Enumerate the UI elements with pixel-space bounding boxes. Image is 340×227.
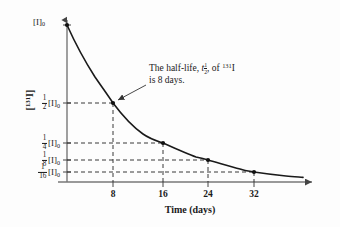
y-tick-label-quarter: 14[I]0 [26,135,60,151]
annotation-text-b: , of [207,63,222,73]
plot-area [0,0,340,227]
annotation-line-2: is 8 days. [149,75,185,85]
fraction-denominator: 2 [42,104,48,112]
y-tick-quarter-sub: 0 [57,143,60,149]
y-tick-sixteenth-sub: 0 [57,172,60,178]
x-tick-label-32: 32 [249,190,259,200]
y-tick-half-sub: 0 [57,103,60,109]
fraction-denominator: 4 [42,144,48,152]
x-tick-label-8: 8 [111,190,116,200]
x-axis-ticks [113,182,254,187]
x-axis-title: Time (days) [165,205,216,215]
y-tick-label-half: 12[I]0 [26,95,60,111]
y-tick-quarter-base: [I] [48,138,57,148]
annotation-isotope-mass: 131 [222,62,232,69]
fraction-denominator: 16 [38,173,47,181]
annotation-arrow [118,85,146,100]
fraction-one-quarter: 14 [42,135,48,151]
annotation-text-a: The half-life, [149,63,202,73]
decay-chart-figure: [131I] [I]0 12[I]0 14[I]0 18[I]0 116[I]0… [0,0,340,227]
data-point-0 [65,23,69,27]
y-tick-half-base: [I] [48,98,57,108]
x-tick-label-16: 16 [158,190,168,200]
x-tick-label-24: 24 [203,190,213,200]
y-tick-sixteenth-base: [I] [48,167,57,177]
data-points [65,23,256,174]
annotation-isotope-element: I [232,63,235,73]
data-point-32 [252,170,256,174]
decay-curve [67,25,303,177]
y-tick-label-sixteenth: 116[I]0 [22,164,60,180]
data-point-8 [111,101,115,105]
data-point-16 [161,141,165,145]
y-tick-initial-sub: 0 [42,21,45,27]
fraction-one-half: 12 [42,95,48,111]
data-point-24 [206,158,210,162]
fraction-one-sixteenth: 116 [38,164,47,180]
y-tick-initial-base: [I] [33,17,42,27]
half-life-annotation: The half-life, t12, of 131I is 8 days. [149,62,284,87]
y-tick-label-initial: [I]0 [33,18,45,27]
